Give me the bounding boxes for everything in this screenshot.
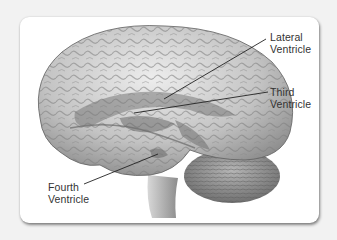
label-line-2: Ventricle <box>270 98 311 110</box>
label-line-1: Lateral <box>270 31 311 43</box>
label-fourth-ventricle: Fourth Ventricle <box>48 181 89 205</box>
label-lateral-ventricle: Lateral Ventricle <box>270 31 311 55</box>
label-line-1: Third <box>270 86 311 98</box>
label-line-1: Fourth <box>48 181 89 193</box>
label-third-ventricle: Third Ventricle <box>270 86 311 110</box>
brain-stem <box>148 175 179 218</box>
label-line-2: Ventricle <box>48 193 89 205</box>
label-line-2: Ventricle <box>270 43 311 55</box>
